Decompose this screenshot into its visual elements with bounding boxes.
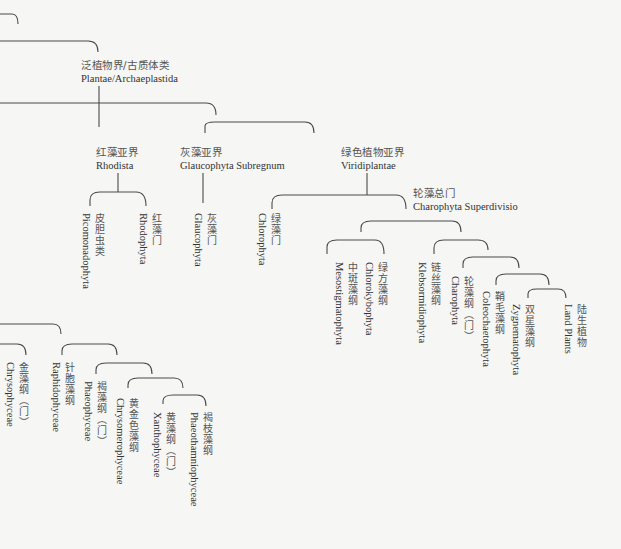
branch-top-left bbox=[0, 14, 18, 24]
branch-charophyta bbox=[463, 257, 519, 268]
leaf-label-chlorokybophyta: 绿方藻纲 Chlorokybophyta bbox=[363, 262, 387, 336]
label-latin: Land Plants bbox=[563, 304, 574, 354]
label-latin: Raphidophyceae bbox=[51, 362, 62, 432]
label-latin: Xanthophyceae bbox=[152, 412, 163, 477]
leaf-label-chrysomerophyceae: 黄金色藻纲 Chrysomerophyceae bbox=[114, 398, 138, 484]
label-latin: Rhodista bbox=[96, 159, 138, 172]
label-latin: Chrysophyceae bbox=[5, 362, 16, 427]
leaf-label-raphidophyceae: 针胞藻纲 Raphidophyceae bbox=[50, 362, 74, 432]
label-latin: Mesostigmatophyta bbox=[334, 262, 345, 345]
label-latin: Phaeophyceae bbox=[83, 381, 94, 441]
label-zh: 中斑藻纲 bbox=[346, 262, 357, 306]
leaf-label-chlorophyta: 绿藻门 Chlorophyta bbox=[256, 213, 280, 266]
leaf-label-coleochaetophyta: 鞘毛藻纲 Coleochaetophyta bbox=[480, 291, 504, 367]
label-latin: Chrysomerophyceae bbox=[115, 398, 126, 484]
label-latin: Picomonadophyta bbox=[81, 213, 92, 289]
branch-coleochaeto bbox=[496, 274, 549, 285]
branch-subregnum bbox=[205, 122, 314, 133]
node-label-viridiplantae: 绿色植物亚界 Viridiplantae bbox=[341, 146, 404, 172]
label-zh: 红藻门 bbox=[150, 213, 161, 246]
label-zh: 鞘毛藻纲 bbox=[493, 291, 504, 335]
label-zh: 绿色植物亚界 bbox=[341, 146, 404, 159]
label-zh: 黄藻纲（门） bbox=[164, 412, 175, 478]
label-zh: 针胞藻纲 bbox=[63, 362, 74, 406]
leaf-label-charophyta: 轮藻纲（门） Charophyta bbox=[449, 276, 473, 342]
label-latin: Glaucophyta Subregnum bbox=[180, 159, 285, 172]
leaf-label-klebsormidiophyta: 链丝藻纲 Klebsormidiophyta bbox=[416, 262, 440, 343]
leaf-label-zygnematophyta: 双星藻纲 Zygnematophyta bbox=[510, 304, 534, 375]
leaf-label-phaeothamniophyceae: 褐枝藻纲 Phaeothamniophyceae bbox=[188, 412, 212, 506]
label-zh: 绿方藻纲 bbox=[376, 262, 387, 306]
label-latin: Charophyta Superdivisio bbox=[413, 200, 518, 213]
branch-to-plantae bbox=[0, 41, 98, 52]
label-zh: 皮胆虫类 bbox=[93, 213, 104, 257]
label-latin: Glaucophyta bbox=[193, 213, 204, 267]
label-zh: 黄金色藻纲 bbox=[127, 398, 138, 453]
label-zh: 金藻纲（门） bbox=[17, 362, 28, 428]
branch-xantho-phaeothamnio bbox=[163, 395, 206, 406]
branch-klebsormidio bbox=[434, 240, 488, 254]
label-zh: 泛植物界/古质体类 bbox=[81, 59, 178, 72]
branch-zygnemato-landplants bbox=[528, 289, 566, 298]
label-latin: Rhodophyta bbox=[138, 213, 149, 264]
node-label-glaucophyta-subregnum: 灰藻亚界 Glaucophyta Subregnum bbox=[180, 146, 285, 172]
leaf-label-picomonadophyta: 皮胆虫类 Picomonadophyta bbox=[80, 213, 104, 289]
node-label-rhodista: 红藻亚界 Rhodista bbox=[96, 146, 138, 172]
label-latin: Chlorokybophyta bbox=[364, 262, 375, 336]
label-zh: 双星藻纲 bbox=[523, 304, 534, 348]
leaf-label-chrysophyceae: 金藻纲（门） Chrysophyceae bbox=[4, 362, 28, 428]
label-latin: Charophyta bbox=[450, 276, 461, 325]
label-zh: 褐藻纲（门） bbox=[95, 381, 106, 447]
label-zh: 陆生植物 bbox=[575, 304, 586, 348]
branch-meso-chlorokybo bbox=[327, 240, 384, 254]
label-latin: Viridiplantae bbox=[341, 159, 404, 172]
label-zh: 轮藻总门 bbox=[413, 187, 518, 200]
label-zh: 褐枝藻纲 bbox=[201, 412, 212, 456]
leaf-label-xanthophyceae: 黄藻纲（门） Xanthophyceae bbox=[151, 412, 175, 478]
branch-strameno-1 bbox=[0, 324, 61, 334]
label-latin: Plantae/Archaeplastida bbox=[81, 72, 178, 85]
label-zh: 绿藻门 bbox=[269, 213, 280, 246]
label-zh: 红藻亚界 bbox=[96, 146, 138, 159]
leaf-label-land-plants: 陆生植物 Land Plants bbox=[562, 304, 586, 354]
branch-charophyta-superdivisio bbox=[361, 221, 461, 232]
label-latin: Zygnematophyta bbox=[511, 304, 522, 375]
branch-plantae-main bbox=[0, 103, 216, 115]
label-zh: 轮藻纲（门） bbox=[462, 276, 473, 342]
label-latin: Phaeothamniophyceae bbox=[189, 412, 200, 506]
branch-viridiplantae bbox=[272, 195, 406, 209]
branch-rhodista bbox=[90, 192, 146, 206]
label-latin: Chlorophyta bbox=[257, 213, 268, 266]
leaf-label-phaeophyceae: 褐藻纲（门） Phaeophyceae bbox=[82, 381, 106, 447]
node-label-charophyta-superdivisio: 轮藻总门 Charophyta Superdivisio bbox=[413, 187, 518, 213]
node-label-plantae: 泛植物界/古质体类 Plantae/Archaeplastida bbox=[81, 59, 178, 85]
label-zh: 链丝藻纲 bbox=[429, 262, 440, 306]
branch-chrysophyceae bbox=[0, 344, 26, 355]
leaf-label-rhodophyta: 红藻门 Rhodophyta bbox=[137, 213, 161, 264]
leaf-label-glaucophyta: 灰藻门 Glaucophyta bbox=[192, 213, 216, 267]
branch-chrysomerophyceae bbox=[128, 378, 183, 388]
leaf-label-mesostigmatophyta: 中斑藻纲 Mesostigmatophyta bbox=[333, 262, 357, 345]
label-latin: Klebsormidiophyta bbox=[417, 262, 428, 343]
label-zh: 灰藻亚界 bbox=[180, 146, 285, 159]
branch-phaeophyceae bbox=[96, 363, 152, 374]
label-latin: Coleochaetophyta bbox=[481, 291, 492, 367]
branch-raphidophyceae bbox=[62, 344, 117, 355]
label-zh: 灰藻门 bbox=[205, 213, 216, 246]
